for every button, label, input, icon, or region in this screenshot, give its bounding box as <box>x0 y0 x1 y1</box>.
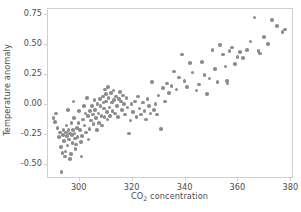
scatter-point <box>125 96 129 100</box>
scatter-point <box>77 109 81 113</box>
scatter-point <box>115 104 119 108</box>
scatter-point <box>236 55 240 59</box>
scatter-point <box>163 100 167 104</box>
scatter-point <box>59 145 63 149</box>
x-tick-mark <box>79 178 80 181</box>
y-tick-mark <box>44 164 47 165</box>
scatter-point <box>135 115 139 119</box>
y-tick-label: -0.25 <box>21 129 42 138</box>
scatter-point <box>77 121 81 125</box>
x-tick-label: 300 <box>59 183 99 192</box>
scatter-point <box>86 114 90 118</box>
scatter-point <box>112 98 116 102</box>
scatter-point <box>57 135 61 139</box>
scatter-point <box>185 85 189 89</box>
scatter-point <box>88 127 92 131</box>
scatter-point <box>74 143 78 147</box>
scatter-point <box>238 50 242 54</box>
scatter-point <box>152 108 156 112</box>
scatter-point <box>131 110 135 114</box>
scatter-point <box>258 52 262 56</box>
scatter-point <box>100 124 104 128</box>
y-tick-mark <box>44 44 47 45</box>
x-tick-label: 380 <box>270 183 301 192</box>
scatter-point <box>161 86 165 90</box>
scatter-point <box>108 114 112 118</box>
scatter-point <box>107 96 111 100</box>
scatter-point <box>70 121 74 125</box>
scatter-point <box>188 61 192 65</box>
x-axis-label-pre: CO <box>131 191 143 201</box>
scatter-point <box>80 134 84 138</box>
scatter-point <box>144 118 148 122</box>
y-tick-label: 0.75 <box>24 9 42 18</box>
scatter-point <box>172 70 176 74</box>
scatter-point <box>62 139 66 143</box>
x-tick-label: 360 <box>217 183 257 192</box>
scatter-chart-figure: Temperature anomaly CO2 concentration 0.… <box>0 0 301 212</box>
y-tick-mark <box>44 104 47 105</box>
scatter-point <box>203 73 207 77</box>
y-axis-label: Temperature anomaly <box>0 0 14 180</box>
y-tick-mark <box>44 134 47 135</box>
y-tick-label: 0.25 <box>24 69 42 78</box>
scatter-point <box>82 104 86 108</box>
x-tick-mark <box>290 178 291 181</box>
x-tick-label: 340 <box>165 183 205 192</box>
scatter-point <box>66 108 70 112</box>
scatter-point <box>56 126 60 130</box>
scatter-point <box>122 102 126 106</box>
scatter-point <box>241 56 245 60</box>
scatter-point <box>93 108 97 112</box>
scatter-point <box>63 155 67 159</box>
scatter-point <box>79 140 83 144</box>
y-tick-mark <box>44 74 47 75</box>
scatter-point <box>200 60 204 64</box>
scatter-point <box>141 101 145 105</box>
scatter-point <box>213 67 217 71</box>
x-axis-label: CO2 concentration <box>47 191 292 201</box>
y-tick-label: 0.50 <box>24 39 42 48</box>
scatter-point <box>205 92 209 96</box>
scatter-point <box>218 43 222 47</box>
scatter-point <box>95 128 99 132</box>
scatter-point <box>266 42 270 46</box>
scatter-point <box>94 116 98 120</box>
y-tick-label: 0.00 <box>24 99 42 108</box>
scatter-point <box>147 104 151 108</box>
scatter-point <box>78 128 82 132</box>
scatter-point <box>72 116 76 120</box>
x-tick-label: 320 <box>112 183 152 192</box>
scatter-point <box>146 97 150 101</box>
x-tick-mark <box>132 178 133 181</box>
x-axis-label-subscript: 2 <box>143 195 147 202</box>
scatter-point <box>245 48 249 52</box>
x-axis-label-post: concentration <box>147 191 208 201</box>
scatter-point <box>120 108 124 112</box>
scatter-point <box>183 79 187 83</box>
scatter-point <box>104 100 108 104</box>
scatter-point <box>262 35 266 39</box>
scatter-point <box>116 115 120 119</box>
scatter-point <box>81 118 85 122</box>
x-tick-mark <box>237 178 238 181</box>
scatter-point <box>165 82 169 86</box>
scatter-point <box>167 91 171 95</box>
scatter-point <box>133 100 137 104</box>
scatter-point <box>270 18 274 22</box>
scatter-point <box>54 112 58 116</box>
scatter-point <box>68 157 72 161</box>
scatter-point <box>143 109 147 113</box>
scatter-point <box>275 24 279 28</box>
scatter-point <box>60 170 64 174</box>
scatter-point <box>106 85 110 89</box>
scatter-point <box>159 127 163 131</box>
x-tick-mark <box>185 178 186 181</box>
y-tick-mark <box>44 14 47 15</box>
scatter-point <box>211 48 215 52</box>
scatter-point <box>85 96 89 100</box>
scatter-point <box>170 84 174 88</box>
scatter-point <box>69 152 73 156</box>
scatter-point <box>53 120 57 124</box>
y-tick-label: -0.50 <box>21 159 42 168</box>
